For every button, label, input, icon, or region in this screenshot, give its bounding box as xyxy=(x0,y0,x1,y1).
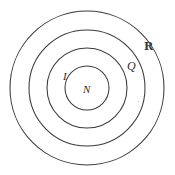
venn-diagram: R Q I N xyxy=(0,0,175,175)
label-real-numbers: R xyxy=(144,41,153,52)
label-integers: I xyxy=(63,71,67,82)
label-rational-numbers: Q xyxy=(127,60,136,72)
speck-artifact xyxy=(138,101,139,102)
label-natural-numbers: N xyxy=(83,84,90,95)
